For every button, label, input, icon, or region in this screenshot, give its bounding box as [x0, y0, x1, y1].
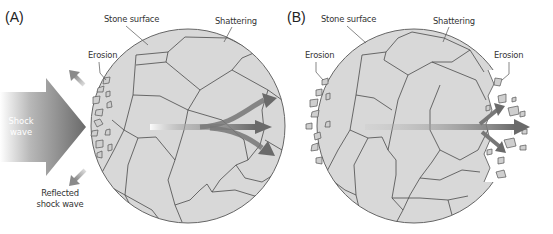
- shock-wave-arrow: Shock wave: [0, 78, 86, 176]
- callout-erosion-b-left: Erosion: [305, 50, 334, 60]
- callout-erosion-a: Erosion: [88, 50, 117, 60]
- shock-wave-label-line2: wave: [10, 127, 32, 137]
- stone-a: [91, 29, 285, 223]
- callout-reflected-line1: Reflected: [41, 188, 79, 198]
- shock-wave-label-line1: Shock: [8, 116, 33, 126]
- shock-wave-lithotripsy-diagram: (A): [0, 0, 553, 234]
- panel-b-label: (B): [287, 9, 306, 25]
- callout-stone-surface-a: Stone surface: [104, 14, 159, 24]
- panel-a: (A): [0, 9, 285, 223]
- panel-a-label: (A): [5, 9, 24, 25]
- callout-reflected-line2: shock wave: [36, 199, 83, 209]
- callout-erosion-b-right: Erosion: [494, 50, 523, 60]
- reflected-arrow-down: [69, 170, 85, 186]
- callout-stone-surface-b: Stone surface: [321, 14, 376, 24]
- callout-shattering-b: Shattering: [433, 16, 475, 26]
- panel-b: (B): [287, 9, 530, 223]
- callout-shattering-a: Shattering: [215, 16, 257, 26]
- reflected-arrow-up: [69, 70, 84, 85]
